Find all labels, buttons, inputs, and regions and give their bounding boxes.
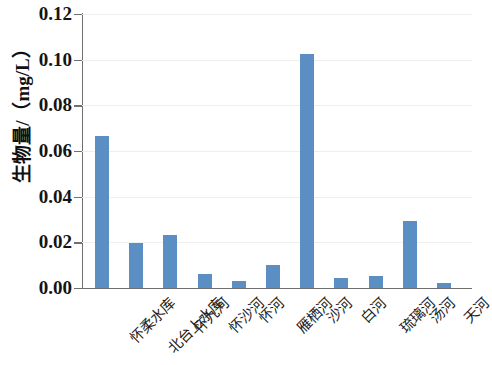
- bar: [369, 276, 383, 288]
- x-axis-category-label: 天河: [461, 296, 491, 326]
- gridline: [82, 105, 472, 106]
- bar: [232, 281, 246, 288]
- x-axis-category-label: 白河: [359, 296, 389, 326]
- y-tick-mark: [74, 60, 82, 61]
- y-tick-label: 0.08: [16, 95, 72, 114]
- y-tick-label: 0.02: [16, 232, 72, 251]
- y-tick-mark: [74, 105, 82, 106]
- y-tick-label-wrap: 0.10: [8, 50, 72, 70]
- y-tick-label-wrap: 0.00: [8, 278, 72, 298]
- gridline: [82, 14, 472, 15]
- y-tick-label-wrap: 0.08: [8, 95, 72, 115]
- x-axis-line: [82, 288, 472, 289]
- y-tick-mark: [74, 288, 82, 289]
- y-tick-label: 0.12: [16, 4, 72, 23]
- y-tick-mark: [74, 151, 82, 152]
- y-tick-label-wrap: 0.12: [8, 4, 72, 24]
- bar: [437, 283, 451, 288]
- bar: [163, 235, 177, 288]
- y-tick-label-wrap: 0.02: [8, 232, 72, 252]
- gridline: [82, 151, 472, 152]
- y-tick-label: 0.04: [16, 187, 72, 206]
- y-tick-label: 0.06: [16, 141, 72, 160]
- bar: [129, 243, 143, 288]
- x-axis-category-label: 怀九河: [192, 296, 232, 336]
- plot-area: [82, 14, 472, 288]
- bar: [334, 278, 348, 288]
- y-tick-label-wrap: 0.06: [8, 141, 72, 161]
- y-tick-label: 0.10: [16, 50, 72, 69]
- gridline: [82, 60, 472, 61]
- y-tick-label-wrap: 0.04: [8, 187, 72, 207]
- bar: [403, 221, 417, 288]
- y-tick-mark: [74, 14, 82, 15]
- y-tick-label: 0.00: [16, 278, 72, 297]
- bar: [266, 265, 280, 288]
- bar: [198, 274, 212, 288]
- bar: [300, 54, 314, 288]
- gridline: [82, 197, 472, 198]
- bar: [95, 136, 109, 288]
- y-tick-mark: [74, 242, 82, 243]
- y-tick-mark: [74, 197, 82, 198]
